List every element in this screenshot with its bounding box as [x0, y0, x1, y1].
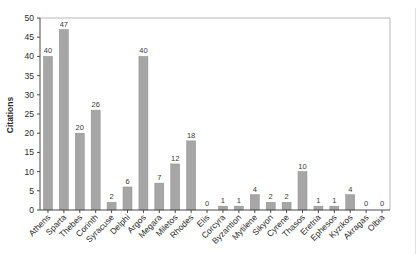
labels-group: 0510152025303540455040Athens47Sparta20Th…: [25, 13, 387, 246]
bar-value-label: 6: [125, 177, 129, 186]
y-tick-label: 0: [29, 205, 34, 215]
bar-syracuse: [107, 202, 116, 210]
y-tick-label: 50: [25, 13, 35, 23]
bar-value-label: 26: [92, 100, 100, 109]
bar-value-label: 40: [44, 46, 52, 55]
bar-value-label: 7: [157, 173, 161, 182]
y-tick-label: 40: [25, 51, 35, 61]
bar-value-label: 47: [60, 20, 68, 29]
x-category-label: Olbia: [365, 212, 386, 233]
y-tick-label: 25: [25, 109, 35, 119]
bar-value-label: 4: [348, 185, 352, 194]
bar-value-label: 20: [76, 123, 84, 132]
bar-value-label: 40: [139, 46, 147, 55]
y-tick-label: 45: [25, 32, 35, 42]
bar-argos: [139, 56, 148, 210]
bar-corcyra: [218, 206, 227, 210]
bar-eretria: [314, 206, 323, 210]
y-tick-label: 5: [29, 186, 34, 196]
bar-athens: [43, 56, 52, 210]
y-tick-label: 15: [25, 147, 35, 157]
bar-value-label: 2: [285, 192, 289, 201]
bar-thasos: [298, 172, 307, 210]
bars-group: [43, 30, 354, 210]
bar-value-label: 2: [269, 192, 273, 201]
bar-value-label: 18: [187, 131, 195, 140]
bar-value-label: 1: [332, 196, 336, 205]
bar-thebes: [75, 133, 84, 210]
bar-mytilene: [250, 195, 259, 210]
bar-value-label: 4: [253, 185, 257, 194]
bar-value-label: 1: [316, 196, 320, 205]
bar-kyzikos: [346, 195, 355, 210]
y-tick-label: 35: [25, 71, 35, 81]
bar-miletos: [171, 164, 180, 210]
bar-sparta: [59, 30, 68, 210]
bar-corinth: [91, 110, 100, 210]
bar-rhodes: [187, 141, 196, 210]
bar-ephesos: [330, 206, 339, 210]
bar-cyrene: [282, 202, 291, 210]
bar-value-label: 10: [298, 162, 306, 171]
citations-bar-chart: 0510152025303540455040Athens47Sparta20Th…: [0, 0, 417, 254]
bar-delphi: [123, 187, 132, 210]
bar-byzantion: [234, 206, 243, 210]
axes-group: [37, 18, 390, 213]
bar-megara: [155, 183, 164, 210]
bar-value-label: 12: [171, 154, 179, 163]
bar-value-label: 2: [110, 192, 114, 201]
bar-value-label: 0: [364, 199, 368, 208]
y-axis-title: Citations: [5, 97, 15, 134]
y-tick-label: 30: [25, 90, 35, 100]
bar-value-label: 1: [221, 196, 225, 205]
scan-page-edge: [415, 8, 416, 254]
bar-sikyon: [266, 202, 275, 210]
bar-value-label: 1: [237, 196, 241, 205]
bar-value-label: 0: [380, 199, 384, 208]
chart-canvas: 0510152025303540455040Athens47Sparta20Th…: [0, 0, 417, 254]
y-tick-label: 20: [25, 128, 35, 138]
bar-value-label: 0: [205, 199, 209, 208]
y-tick-label: 10: [25, 167, 35, 177]
